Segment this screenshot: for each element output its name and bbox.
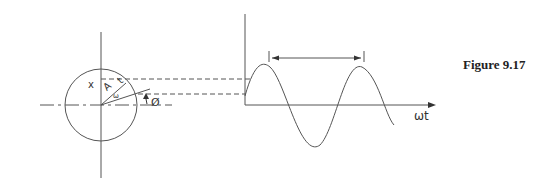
figure-caption: Figure 9.17 bbox=[463, 57, 526, 73]
period-arrowhead-right bbox=[354, 56, 361, 61]
phasor-sine-diagram: x A t ω Ø ωt bbox=[0, 0, 548, 190]
label-x: x bbox=[88, 79, 94, 90]
label-amplitude: A bbox=[101, 80, 113, 93]
period-arrowhead-left bbox=[272, 56, 279, 61]
sine-wave bbox=[245, 64, 394, 147]
wave-axis-label: ωt bbox=[414, 109, 429, 123]
label-phase: Ø bbox=[151, 96, 160, 109]
axis-arrowhead bbox=[428, 102, 436, 108]
label-omega: ω bbox=[113, 92, 119, 100]
